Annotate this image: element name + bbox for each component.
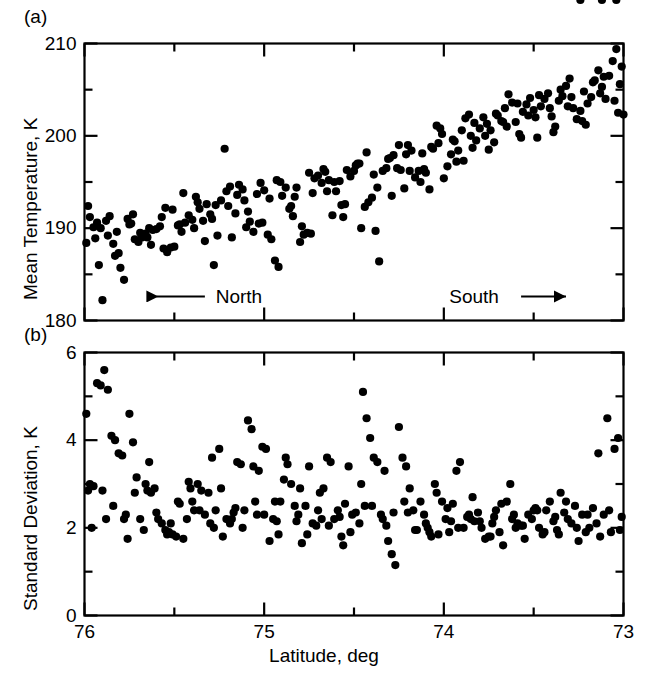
x-tick-label: 73 bbox=[594, 622, 648, 641]
data-point bbox=[398, 454, 406, 462]
data-point bbox=[402, 462, 410, 470]
data-point bbox=[576, 107, 584, 115]
data-point bbox=[136, 515, 144, 523]
data-point bbox=[305, 462, 313, 470]
data-point bbox=[274, 263, 282, 271]
panel-b-y-tick-label: 2 bbox=[17, 518, 77, 537]
data-point bbox=[213, 231, 221, 239]
data-point bbox=[253, 511, 261, 519]
data-point bbox=[382, 522, 390, 530]
data-point bbox=[388, 550, 396, 558]
data-point bbox=[452, 158, 460, 166]
data-point bbox=[371, 227, 379, 235]
data-point bbox=[339, 541, 347, 549]
data-point bbox=[82, 239, 90, 247]
data-point bbox=[481, 132, 489, 140]
data-point bbox=[253, 190, 261, 198]
data-point bbox=[416, 178, 424, 186]
data-point bbox=[129, 438, 137, 446]
data-point bbox=[470, 119, 478, 127]
data-point bbox=[402, 150, 410, 158]
data-point bbox=[145, 458, 153, 466]
data-point bbox=[618, 513, 626, 521]
data-point bbox=[197, 486, 205, 494]
data-point bbox=[618, 62, 626, 70]
data-point bbox=[111, 252, 119, 260]
data-point bbox=[249, 228, 257, 236]
data-point bbox=[359, 388, 367, 396]
data-point bbox=[513, 99, 521, 107]
data-point bbox=[535, 91, 543, 99]
data-point bbox=[179, 535, 187, 543]
data-point bbox=[460, 157, 468, 165]
data-point bbox=[440, 174, 448, 182]
data-point bbox=[411, 526, 419, 534]
data-point bbox=[406, 167, 414, 175]
panel-a-group bbox=[82, 44, 627, 321]
data-point bbox=[226, 183, 234, 191]
data-point bbox=[366, 434, 374, 442]
data-point bbox=[549, 128, 557, 136]
data-point bbox=[474, 508, 482, 516]
data-point bbox=[231, 504, 239, 512]
data-point bbox=[465, 511, 473, 519]
data-point bbox=[86, 213, 94, 221]
data-point bbox=[434, 530, 442, 538]
scatter-plot-canvas: NorthSouth bbox=[0, 0, 648, 678]
data-point bbox=[271, 497, 279, 505]
data-point bbox=[318, 515, 326, 523]
data-point bbox=[512, 118, 520, 126]
data-point bbox=[468, 493, 476, 501]
data-point bbox=[240, 506, 248, 514]
data-point bbox=[434, 139, 442, 147]
data-point bbox=[438, 497, 446, 505]
data-point bbox=[566, 74, 574, 82]
data-point bbox=[580, 87, 588, 95]
data-point bbox=[312, 522, 320, 530]
data-point bbox=[174, 497, 182, 505]
data-point bbox=[492, 110, 500, 118]
data-point bbox=[582, 121, 590, 129]
data-point bbox=[319, 484, 327, 492]
data-point bbox=[210, 261, 218, 269]
data-point bbox=[506, 480, 514, 488]
data-point bbox=[251, 497, 259, 505]
data-point bbox=[244, 416, 252, 424]
data-point bbox=[265, 195, 273, 203]
data-point bbox=[129, 210, 137, 218]
data-point bbox=[495, 528, 503, 536]
data-point bbox=[508, 515, 516, 523]
data-point bbox=[490, 513, 498, 521]
data-point bbox=[521, 535, 529, 543]
data-point bbox=[258, 219, 266, 227]
data-point bbox=[291, 502, 299, 510]
data-point bbox=[150, 484, 158, 492]
data-point bbox=[425, 185, 433, 193]
data-point bbox=[583, 511, 591, 519]
data-point bbox=[391, 561, 399, 569]
data-point bbox=[544, 89, 552, 97]
data-point bbox=[524, 111, 532, 119]
data-point bbox=[447, 517, 455, 525]
data-point bbox=[104, 231, 112, 239]
data-point bbox=[289, 212, 297, 220]
data-point bbox=[221, 145, 229, 153]
data-point bbox=[125, 410, 133, 418]
data-point bbox=[499, 541, 507, 549]
data-point bbox=[168, 206, 176, 214]
panel-a-y-tick-label: 210 bbox=[17, 34, 77, 53]
data-point bbox=[361, 502, 369, 510]
data-point bbox=[404, 508, 412, 516]
data-point bbox=[557, 86, 565, 94]
x-tick-label: 74 bbox=[414, 622, 474, 641]
data-point bbox=[298, 222, 306, 230]
data-point bbox=[224, 202, 232, 210]
data-point bbox=[485, 146, 493, 154]
data-point bbox=[82, 410, 90, 418]
data-point bbox=[141, 480, 149, 488]
data-point bbox=[362, 414, 370, 422]
data-point bbox=[468, 144, 476, 152]
data-point bbox=[431, 480, 439, 488]
data-point bbox=[106, 212, 114, 220]
data-point bbox=[84, 202, 92, 210]
